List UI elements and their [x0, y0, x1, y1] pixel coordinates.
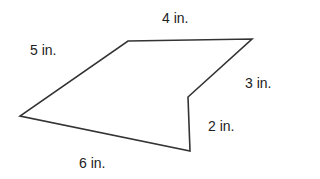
side-label-upper-right: 3 in. — [245, 75, 271, 91]
side-label-top: 4 in. — [162, 10, 188, 26]
side-label-upper-left: 5 in. — [30, 42, 56, 58]
side-label-bottom: 6 in. — [79, 155, 105, 171]
side-label-lower-right: 2 in. — [208, 118, 234, 134]
